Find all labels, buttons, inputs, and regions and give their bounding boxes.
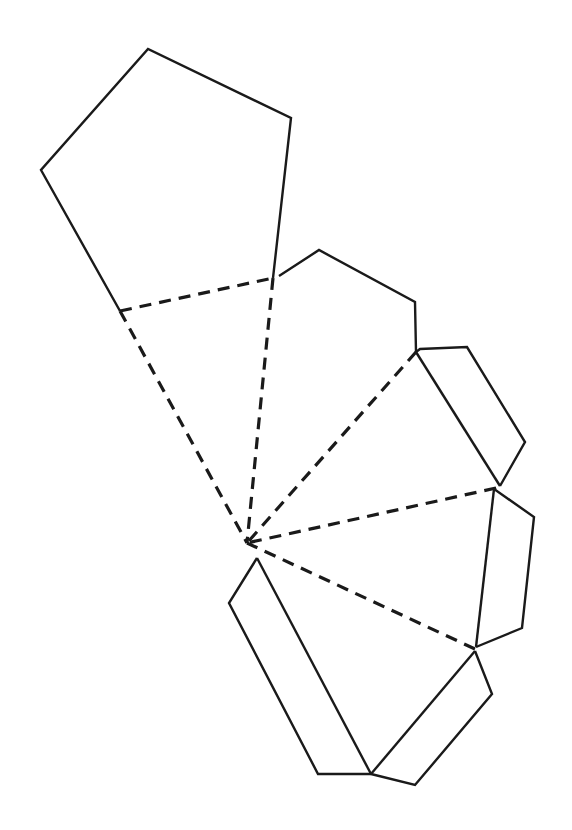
- background: [0, 0, 572, 830]
- pyramid-net-diagram: [0, 0, 572, 830]
